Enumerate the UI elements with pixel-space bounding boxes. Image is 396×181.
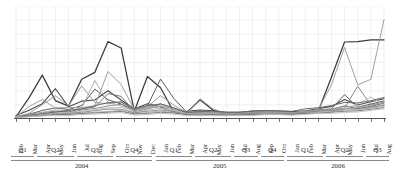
month-tick [16,119,17,122]
quarter-rule [366,156,389,157]
quarter-rule [234,156,257,157]
month-tick [253,119,254,122]
quarter-label: Q3 [365,146,390,154]
month-tick [292,119,293,122]
month-tick [279,119,280,122]
month-tick [134,119,135,122]
month-tick [42,119,43,122]
plot-area [14,6,386,119]
quarter-label: Q1 [286,146,324,154]
quarter-rule [37,156,73,157]
month-tick [200,119,201,122]
month-tick [95,119,96,122]
year-rule [11,160,152,161]
quarter-label: Q1 [10,146,35,154]
year-axis-labels: 200420052006 [14,160,386,174]
quarter-label: Q3 [233,146,258,154]
quarter-rule [195,156,231,157]
quarter-label: Q2 [36,146,74,154]
month-tick [29,119,30,122]
month-tick [358,119,359,122]
month-tick [226,119,227,122]
quarter-label: Q2 [194,146,232,154]
month-tick [121,119,122,122]
quarter-rule [116,156,152,157]
quarter-rule [11,156,34,157]
month-tick [384,119,385,122]
quarter-rule [326,156,362,157]
month-tick [147,119,148,122]
quarter-rule [156,156,192,157]
month-tick [305,119,306,122]
quarter-rule [77,156,113,157]
month-tick [213,119,214,122]
month-tick [371,119,372,122]
month-tick [239,119,240,122]
month-tick [174,119,175,122]
quarter-label: Q1 [155,146,193,154]
month-tick [161,119,162,122]
series-canvas [14,6,386,119]
month-tick [69,119,70,122]
quarter-label: Q2 [325,146,363,154]
quarter-rule [261,156,284,157]
month-tick [345,119,346,122]
year-label: 2004 [10,162,153,170]
quarter-axis-labels: Q1Q2Q3Q4Q1Q2Q3Q4Q1Q2Q3 [14,146,386,158]
quarter-rule [287,156,323,157]
month-tick [266,119,267,122]
month-tick [55,119,56,122]
month-axis-labels: FebMarAprMayJunJulAugSepOctNovDecJanFebM… [14,119,386,147]
year-rule [287,160,389,161]
month-tick [108,119,109,122]
gridlines [14,6,386,119]
month-tick [318,119,319,122]
year-rule [156,160,284,161]
quarter-label: Q3 [76,146,114,154]
year-label: 2005 [155,162,285,170]
quarter-label: Q4 [260,146,285,154]
month-tick [82,119,83,122]
quarter-label: Q4 [115,146,153,154]
year-label: 2006 [286,162,390,170]
month-tick [331,119,332,122]
line-chart: FebMarAprMayJunJulAugSepOctNovDecJanFebM… [0,0,396,181]
month-tick [187,119,188,122]
